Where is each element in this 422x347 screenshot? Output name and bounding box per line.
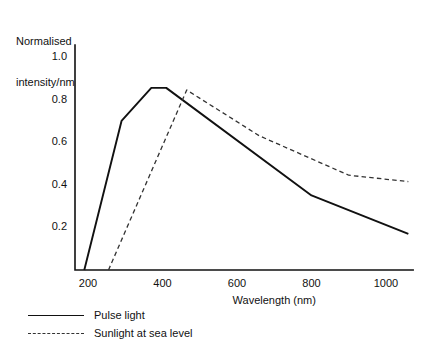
x-axis-title: Wavelength (nm) [204, 294, 344, 306]
legend-label-pulse-light: Pulse light [94, 309, 145, 321]
y-tick-label-0.4: 0.4 [37, 178, 67, 190]
legend-label-sunlight-at-sea-level: Sunlight at sea level [94, 327, 192, 339]
legend-item-pulse-light: Pulse light [28, 306, 192, 324]
x-tick-label-1000: 1000 [366, 277, 406, 289]
y-tick-label-0.8: 0.8 [37, 93, 67, 105]
y-tick-label-1.0: 1.0 [37, 50, 67, 62]
x-tick-label-800: 800 [292, 277, 332, 289]
chart-axes [75, 44, 414, 270]
chart-container: Normalised intensity/nm 0.20.40.60.81.0 … [0, 0, 422, 347]
legend-swatch-solid [28, 310, 84, 320]
y-tick-label-0.6: 0.6 [37, 135, 67, 147]
x-tick-label-400: 400 [143, 277, 183, 289]
legend: Pulse light Sunlight at sea level [28, 306, 192, 342]
legend-item-sunlight-at-sea-level: Sunlight at sea level [28, 324, 192, 342]
y-tick-label-0.2: 0.2 [37, 220, 67, 232]
x-tick-label-600: 600 [217, 277, 257, 289]
series-line-pulse-light [84, 88, 408, 270]
series-line-sunlight-at-sea-level [108, 90, 408, 270]
legend-swatch-dashed [28, 328, 84, 338]
x-tick-label-200: 200 [68, 277, 108, 289]
